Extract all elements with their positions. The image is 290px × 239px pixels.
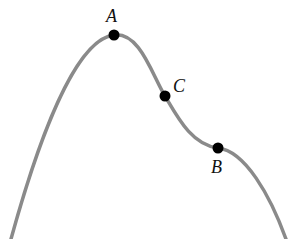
point-c-label: C — [173, 76, 186, 96]
point-a-marker — [109, 30, 120, 41]
curve-diagram: A C B — [0, 0, 290, 239]
point-a-label: A — [105, 6, 118, 26]
point-c-marker — [160, 91, 171, 102]
curve — [11, 35, 286, 239]
point-b-label: B — [211, 157, 222, 177]
point-b-marker — [213, 143, 224, 154]
